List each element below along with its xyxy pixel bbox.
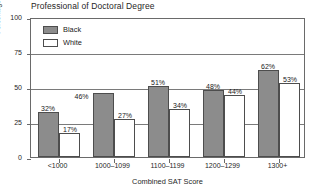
x-tick-label-1: 1000–1099: [95, 162, 130, 169]
legend-label-black: Black: [63, 25, 81, 34]
y-tick-mark-75: [27, 54, 31, 55]
chart-container: Professional of Doctoral Degree Percenta…: [0, 0, 317, 187]
data-label-white-2: 34%: [173, 102, 187, 109]
bar-black-2: [148, 86, 169, 157]
bar-black-1: [93, 93, 114, 157]
data-label-black-0: 32%: [41, 105, 55, 112]
bar-white-0: [59, 133, 80, 157]
chart-title: Professional of Doctoral Degree: [31, 1, 155, 11]
y-tick-label-25: 25: [0, 119, 22, 126]
plot-area: Black White 32%17%46%27%51%34%48%44%62%5…: [30, 18, 305, 158]
bar-white-4: [279, 83, 300, 157]
data-label-white-3: 44%: [228, 88, 242, 95]
x-tick-label-3: 1200–1299: [205, 162, 240, 169]
gridline-75: [31, 54, 304, 55]
bar-white-1: [114, 119, 135, 157]
x-axis-title: Combined SAT Score: [30, 177, 305, 186]
chart-legend: Black White: [43, 25, 82, 51]
y-axis-title: Percentage of Graduates: [0, 0, 1, 52]
legend-swatch-white-icon: [43, 39, 58, 47]
data-label-black-3: 48%: [206, 83, 220, 90]
data-label-black-1: 46%: [74, 93, 88, 100]
legend-label-white: White: [63, 38, 82, 47]
y-tick-label-100: 100: [0, 14, 22, 21]
x-tick-label-0: <1000: [48, 162, 68, 169]
x-tick-label-4: 1300+: [268, 162, 288, 169]
x-tick-label-2: 1100–1199: [151, 162, 185, 169]
bar-black-0: [38, 112, 59, 157]
data-label-black-2: 51%: [151, 79, 165, 86]
y-tick-label-50: 50: [0, 84, 22, 91]
legend-item-black: Black: [43, 25, 82, 34]
legend-item-white: White: [43, 38, 82, 47]
data-label-black-4: 62%: [261, 63, 275, 70]
legend-swatch-black-icon: [43, 26, 58, 34]
y-tick-label-0: 0: [0, 154, 22, 161]
bar-white-3: [224, 95, 245, 157]
data-label-white-0: 17%: [63, 126, 77, 133]
data-label-white-4: 53%: [283, 76, 297, 83]
bar-white-2: [169, 109, 190, 157]
y-tick-mark-25: [27, 124, 31, 125]
data-label-white-1: 27%: [118, 112, 132, 119]
y-tick-mark-0: [27, 159, 31, 160]
y-tick-mark-50: [27, 89, 31, 90]
bar-black-4: [258, 70, 279, 157]
y-tick-mark-100: [27, 19, 31, 20]
bar-black-3: [203, 90, 224, 157]
y-tick-label-75: 75: [0, 49, 22, 56]
